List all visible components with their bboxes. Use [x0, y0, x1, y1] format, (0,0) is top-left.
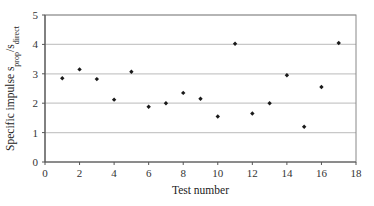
data-point: [112, 97, 116, 101]
x-tick-label: 6: [146, 167, 152, 179]
x-tick-label: 10: [212, 167, 224, 179]
gridlines: [45, 15, 356, 133]
y-axis-title-main: Specific impulse s: [4, 66, 17, 151]
x-tick-label: 4: [111, 167, 117, 179]
data-point: [198, 97, 202, 101]
x-tick-label: 12: [247, 167, 258, 179]
y-tick-label: 4: [33, 38, 39, 50]
data-point: [60, 76, 64, 80]
y-axis-title-sub2: direct: [12, 25, 21, 44]
x-tick-label: 8: [180, 167, 186, 179]
y-tick-label: 1: [33, 127, 39, 139]
x-tick-label: 2: [77, 167, 83, 179]
data-point: [164, 101, 168, 105]
data-point: [216, 114, 220, 118]
data-point: [250, 111, 254, 115]
data-point: [302, 125, 306, 129]
y-tick-label: 2: [33, 97, 39, 109]
x-axis-title: Test number: [172, 184, 229, 196]
plot-frame: [45, 15, 356, 162]
x-tick-label: 0: [42, 167, 48, 179]
y-axis: 012345: [33, 9, 46, 168]
data-point: [146, 105, 150, 109]
scatter-chart: 012345 024681012141618 Test number Speci…: [0, 0, 374, 206]
data-point: [233, 42, 237, 46]
data-points: [60, 41, 341, 129]
data-point: [319, 85, 323, 89]
data-point: [95, 77, 99, 81]
y-axis-title: Specific impulse sprop/sdirect: [4, 25, 21, 151]
data-point: [267, 101, 271, 105]
x-tick-label: 14: [281, 167, 293, 179]
y-axis-title-sub1: prop: [12, 52, 21, 67]
y-tick-label: 3: [33, 68, 39, 80]
x-tick-label: 18: [351, 167, 363, 179]
y-tick-label: 5: [33, 9, 39, 21]
x-tick-label: 16: [316, 167, 328, 179]
x-axis: 024681012141618: [42, 162, 362, 179]
y-tick-label: 0: [33, 156, 39, 168]
data-point: [77, 67, 81, 71]
data-point: [181, 91, 185, 95]
